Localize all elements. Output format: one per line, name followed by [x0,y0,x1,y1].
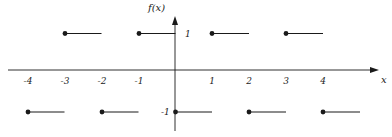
x-tick-label-neg3: -3 [61,77,70,86]
y-axis-label: f(x) [148,3,165,13]
closed-endpoint-dot [321,110,326,115]
x-tick-label-neg4: -4 [24,77,33,86]
closed-endpoint-dot [210,31,215,36]
x-tick-label-neg1: -1 [135,77,144,86]
x-tick-label-1: 1 [209,77,215,86]
x-tick-label-2: 2 [246,77,252,86]
closed-endpoint-dot [284,31,289,36]
closed-endpoint-dot [100,110,105,115]
segment-group-lower [26,110,360,115]
plot-canvas [0,0,392,137]
segment-group-upper [63,31,323,36]
step-function-figure: f(x) x 1 -1 -4 -3 -2 -1 1 2 3 4 [0,0,392,137]
x-tick-label-neg2: -2 [98,77,107,86]
closed-endpoint-dot [247,110,252,115]
closed-endpoint-dot [26,110,31,115]
closed-endpoint-dot [63,31,68,36]
closed-endpoint-dot [173,110,178,115]
y-tick-label-1: 1 [185,30,191,39]
y-tick-label-neg1: -1 [161,108,170,117]
x-tick-label-3: 3 [283,77,289,86]
x-axis-arrowhead [370,67,379,73]
closed-endpoint-dot [137,31,142,36]
y-axis-arrowhead [172,16,178,25]
x-axis-label: x [381,75,387,85]
x-tick-label-4: 4 [320,77,326,86]
